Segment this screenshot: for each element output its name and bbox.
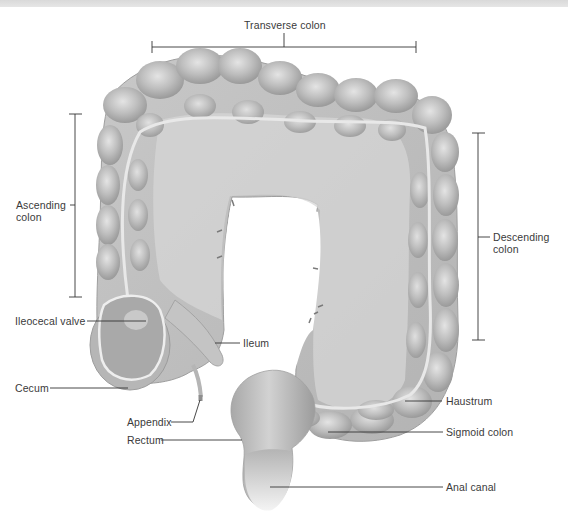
rectum: [231, 370, 315, 510]
label-anal-canal: Anal canal: [446, 481, 496, 493]
label-descending-colon-line1: Descending: [493, 231, 549, 243]
appendix: [193, 365, 201, 397]
label-haustrum: Haustrum: [446, 395, 492, 407]
descending-colon-bracket: [472, 133, 490, 340]
label-cecum: Cecum: [15, 382, 49, 394]
label-transverse-colon: Transverse colon: [244, 19, 326, 31]
colon-illustration: [0, 0, 568, 531]
cecum: [90, 296, 170, 390]
label-sigmoid-colon: Sigmoid colon: [446, 426, 513, 438]
label-appendix: Appendix: [127, 416, 172, 428]
label-descending-colon: Descending colon: [493, 231, 549, 255]
label-ileocecal-valve: Ileocecal valve: [15, 315, 85, 327]
label-ascending-colon-line2: colon: [16, 211, 66, 223]
label-ascending-colon: Ascending colon: [16, 199, 66, 223]
label-ileum: Ileum: [243, 337, 269, 349]
label-rectum: Rectum: [127, 434, 164, 446]
label-ascending-colon-line1: Ascending: [16, 199, 66, 211]
ascending-colon-bracket: [69, 114, 82, 297]
label-descending-colon-line2: colon: [493, 243, 549, 255]
